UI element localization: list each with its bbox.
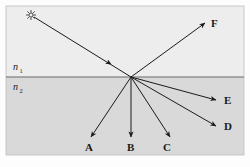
ray-label-A: A: [85, 141, 93, 153]
ray-label-D: D: [224, 120, 232, 132]
light-source-starburst-icon: [26, 10, 36, 20]
ray-label-F: F: [211, 17, 218, 29]
n1-subscript: 1: [20, 67, 23, 74]
ray-diagram-figure: n 1 n 2 F E D C B A: [0, 0, 250, 167]
n2-symbol: n: [13, 81, 18, 92]
ray-label-E: E: [224, 94, 231, 106]
n2-subscript: 2: [20, 87, 23, 94]
ray-label-C: C: [163, 141, 171, 153]
upper-medium-region: [6, 6, 244, 77]
n1-symbol: n: [13, 61, 18, 72]
ray-diagram-svg: n 1 n 2 F E D C B A: [0, 0, 250, 167]
ray-label-B: B: [127, 141, 135, 153]
lower-medium-region: [6, 77, 244, 155]
